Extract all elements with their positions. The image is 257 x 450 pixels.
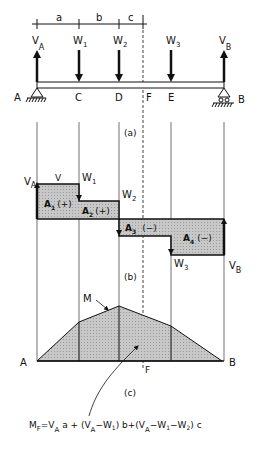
load-arrow-w2	[115, 50, 123, 82]
label-w1: W1	[73, 35, 87, 49]
dim-b: b	[96, 12, 102, 23]
moment-formula: MF=VA a + (VA−W1) b+(VA−W1−W2) c	[29, 420, 202, 434]
reaction-arrow-vb	[220, 50, 228, 82]
moment-diagram	[37, 300, 224, 416]
caption-c: (c)	[124, 388, 136, 398]
dim-a: a	[56, 12, 62, 23]
point-c: C	[75, 92, 82, 103]
shear-label-w2: W2	[122, 189, 136, 203]
label-va: VA	[32, 35, 45, 52]
dim-c: c	[128, 12, 134, 23]
label-w2: W2	[113, 35, 127, 49]
pin-support-a	[26, 88, 46, 102]
point-b: B	[238, 94, 245, 105]
beam-diagram: a b c VA VB W1 W2 W3	[0, 0, 257, 450]
shear-label-vb: VB	[229, 260, 241, 275]
moment-label-b: B	[229, 357, 236, 368]
shear-label-w3: W3	[174, 258, 188, 272]
moment-label-m: M	[83, 293, 92, 304]
load-arrow-w3	[167, 50, 175, 82]
moment-label-f: F	[145, 365, 150, 375]
roller-support-b	[212, 88, 234, 107]
reaction-arrow-va	[33, 50, 41, 82]
shear-label-w1: W1	[82, 172, 96, 186]
shear-label-v: V	[55, 173, 62, 183]
point-a: A	[14, 92, 21, 103]
moment-label-a: A	[20, 357, 27, 368]
caption-b: (b)	[124, 272, 137, 282]
point-d: D	[115, 92, 123, 103]
load-arrow-w1	[75, 50, 83, 82]
label-w3: W3	[166, 35, 180, 49]
shear-label-va: VA	[24, 176, 37, 190]
beam	[37, 82, 224, 88]
label-vb: VB	[219, 35, 231, 52]
caption-a: (a)	[124, 128, 137, 138]
point-f: F	[146, 92, 152, 103]
point-e: E	[168, 92, 174, 103]
